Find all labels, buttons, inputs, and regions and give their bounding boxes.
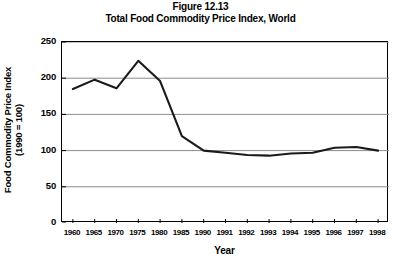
x-tick-label: 1993 xyxy=(260,228,276,238)
figure-number-title: Figure 12.13 xyxy=(0,1,401,13)
x-axis-tick-labels: 1960196519701975198019851990199119921993… xyxy=(61,228,388,242)
x-tick-label: 1992 xyxy=(238,228,254,238)
y-tick-label: 50 xyxy=(28,181,56,191)
x-tick-label: 1975 xyxy=(129,228,145,238)
y-tick-label: 0 xyxy=(28,217,56,227)
x-tick-label: 1996 xyxy=(325,228,341,238)
x-tick-label: 1991 xyxy=(216,228,232,238)
x-tick-label: 1970 xyxy=(107,228,123,238)
data-series-line xyxy=(73,61,378,156)
chart-title: Total Food Commodity Price Index, World xyxy=(0,13,401,25)
y-axis-tick-labels: 050100150200250 xyxy=(26,0,56,273)
figure-container: Figure 12.13 Total Food Commodity Price … xyxy=(0,0,401,273)
x-tick-marks-group xyxy=(73,219,378,223)
x-tick-label: 1995 xyxy=(304,228,320,238)
y-tick-label: 100 xyxy=(28,145,56,155)
chart-title-block: Figure 12.13 Total Food Commodity Price … xyxy=(0,1,401,25)
x-tick-label: 1985 xyxy=(173,228,189,238)
y-axis-title-line-2: (1990 = 100) xyxy=(13,36,24,224)
y-tick-marks-group xyxy=(62,42,66,223)
x-tick-label: 1997 xyxy=(347,228,363,238)
gridlines-group xyxy=(62,42,389,187)
y-axis-title-line-1: Food Commodity Price Index xyxy=(2,67,13,193)
x-tick-label: 1965 xyxy=(86,228,102,238)
plot-area xyxy=(61,41,388,222)
y-axis-title: Food Commodity Price Index (1990 = 100) xyxy=(0,36,26,224)
y-tick-label: 250 xyxy=(28,36,56,46)
line-chart-svg xyxy=(62,42,389,223)
y-tick-label: 200 xyxy=(28,72,56,82)
x-tick-label: 1960 xyxy=(64,228,80,238)
x-tick-label: 1980 xyxy=(151,228,167,238)
y-tick-label: 150 xyxy=(28,108,56,118)
x-tick-label: 1990 xyxy=(195,228,211,238)
x-tick-label: 1998 xyxy=(369,228,385,238)
x-axis-title: Year xyxy=(61,245,388,257)
y-axis-title-text: Food Commodity Price Index (1990 = 100) xyxy=(2,36,24,224)
x-tick-label: 1994 xyxy=(282,228,298,238)
